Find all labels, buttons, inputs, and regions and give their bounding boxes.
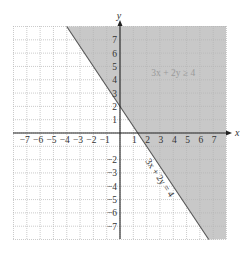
plot-svg: −7−6−5−4−3−2−11234567−7−6−5−4−3−21234567… [0,0,247,255]
x-tick-label: 1 [132,135,137,145]
x-tick-label: 3 [159,135,164,145]
region-label: 3x + 2y ≥ 4 [151,68,195,78]
x-tick-label: −4 [60,135,70,145]
y-tick-label: 6 [112,49,117,59]
y-tick-label: 7 [112,35,117,45]
x-axis-arrow-icon [226,131,232,136]
x-tick-label: −2 [86,135,96,145]
y-tick-label: −6 [107,208,117,218]
y-tick-label: −3 [107,168,117,178]
x-tick-label: 5 [185,135,190,145]
x-tick-label: −7 [20,135,30,145]
x-tick-label: 2 [145,135,150,145]
y-tick-label: −5 [107,195,117,205]
y-tick-label: −7 [107,222,117,232]
y-tick-label: 5 [112,62,117,72]
x-tick-label: −5 [46,135,56,145]
y-tick-label: −2 [107,155,117,165]
x-axis-label: x [234,127,240,138]
x-tick-label: 4 [172,135,177,145]
y-axis-label: y [116,10,122,21]
x-tick-label: 7 [212,135,217,145]
y-tick-label: 3 [112,89,117,99]
y-tick-label: 1 [112,115,117,125]
x-tick-label: −1 [100,135,110,145]
y-tick-label: 4 [112,75,117,85]
y-tick-label: 2 [112,102,117,112]
x-tick-label: −6 [33,135,43,145]
x-tick-label: 6 [199,135,204,145]
inequality-graph: −7−6−5−4−3−2−11234567−7−6−5−4−3−21234567… [0,0,247,255]
y-tick-label: −4 [107,182,117,192]
x-tick-label: −3 [73,135,83,145]
